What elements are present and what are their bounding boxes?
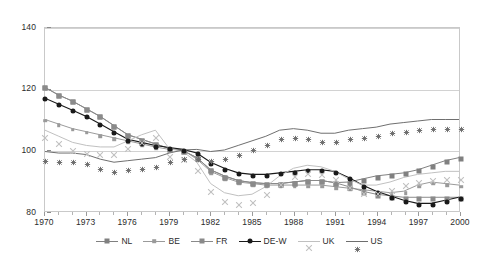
x-tick-mark-1998 [432, 212, 433, 215]
x-tick-label-1970: 1970 [24, 218, 64, 227]
legend-swatch-de-w [239, 236, 261, 246]
x-tick-mark-1999 [446, 212, 447, 215]
x-tick-mark-1977 [141, 212, 142, 215]
legend-swatch-nl [96, 236, 118, 246]
x-tick-mark-1975 [113, 212, 114, 215]
x-tick-mark-1993 [363, 212, 364, 215]
legend-label-nl: NL [121, 237, 132, 246]
legend-item-be[interactable]: BE [143, 236, 180, 246]
x-tick-mark-1991 [335, 212, 336, 216]
x-axis: 1970197319761979198219851988199119941997… [0, 0, 479, 263]
legend-marker-de-w [247, 239, 252, 244]
x-tick-mark-1984 [238, 212, 239, 215]
x-tick-label-1997: 1997 [398, 218, 438, 227]
x-tick-mark-1989 [307, 212, 308, 215]
x-tick-label-1985: 1985 [232, 218, 272, 227]
legend-marker-nl [105, 239, 110, 244]
x-tick-label-1973: 1973 [66, 218, 106, 227]
x-tick-mark-1992 [349, 212, 350, 215]
x-tick-mark-2000 [460, 212, 461, 216]
legend-item-uk[interactable]: UK [298, 236, 335, 246]
chart-legend: NLBEFRDE-WUKUS [0, 236, 479, 246]
legend-label-fr: FR [216, 237, 228, 246]
x-tick-label-1994: 1994 [357, 218, 397, 227]
x-tick-label-1976: 1976 [107, 218, 147, 227]
legend-swatch-us [346, 236, 368, 246]
x-tick-mark-1972 [72, 212, 73, 215]
legend-item-fr[interactable]: FR [191, 236, 228, 246]
x-tick-mark-1973 [86, 212, 87, 216]
legend-label-uk: UK [323, 237, 335, 246]
x-tick-label-1982: 1982 [190, 218, 230, 227]
x-tick-label-2000: 2000 [440, 218, 479, 227]
chart-root: 80100120140 1970197319761979198219851988… [0, 0, 479, 263]
x-tick-mark-1979 [169, 212, 170, 216]
legend-swatch-uk [298, 236, 320, 246]
legend-marker-uk [305, 238, 312, 245]
legend-item-nl[interactable]: NL [96, 236, 132, 246]
x-tick-label-1979: 1979 [149, 218, 189, 227]
legend-swatch-fr [191, 236, 213, 246]
x-tick-mark-1982 [210, 212, 211, 216]
x-tick-mark-1986 [266, 212, 267, 215]
legend-marker-be [153, 239, 157, 243]
legend-label-us: US [371, 237, 383, 246]
x-tick-mark-1995 [391, 212, 392, 215]
legend-swatch-be [143, 236, 165, 246]
x-tick-mark-1980 [183, 212, 184, 215]
x-tick-label-1988: 1988 [274, 218, 314, 227]
x-tick-label-1991: 1991 [315, 218, 355, 227]
x-tick-mark-1983 [224, 212, 225, 215]
legend-label-be: BE [168, 237, 180, 246]
legend-marker-fr [200, 239, 205, 244]
x-tick-mark-1997 [418, 212, 419, 216]
legend-item-us[interactable]: US [346, 236, 383, 246]
x-tick-mark-1978 [155, 212, 156, 215]
x-tick-mark-1996 [405, 212, 406, 215]
x-tick-mark-1994 [377, 212, 378, 216]
x-tick-mark-1988 [294, 212, 295, 216]
x-tick-mark-1974 [99, 212, 100, 215]
legend-item-de-w[interactable]: DE-W [239, 236, 287, 246]
x-tick-mark-1971 [58, 212, 59, 215]
x-tick-mark-1970 [44, 212, 45, 216]
x-tick-mark-1987 [280, 212, 281, 215]
legend-label-de-w: DE-W [264, 237, 287, 246]
x-tick-mark-1976 [127, 212, 128, 216]
x-tick-mark-1990 [321, 212, 322, 215]
legend-marker-us [354, 239, 359, 244]
x-tick-mark-1981 [197, 212, 198, 215]
x-tick-mark-1985 [252, 212, 253, 216]
